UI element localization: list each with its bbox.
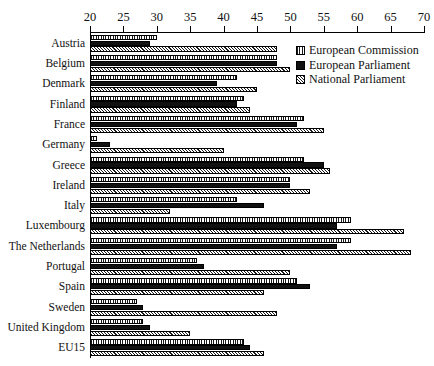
bar-ep	[90, 264, 204, 269]
category-label: The Netherlands	[0, 240, 88, 252]
category-label: Spain	[0, 280, 88, 292]
x-tick-label: 60	[342, 11, 372, 24]
x-tick	[190, 26, 191, 32]
category-label: France	[0, 118, 88, 130]
chart-legend: European CommissionEuropean ParliamentNa…	[296, 44, 419, 88]
bar-ec	[90, 177, 290, 182]
legend-item: National Parliament	[296, 73, 419, 87]
x-tick-label: 30	[142, 11, 172, 24]
legend-label: European Commission	[309, 44, 419, 58]
legend-item: European Parliament	[296, 59, 419, 73]
bar-ec	[90, 258, 197, 263]
bar-np	[90, 67, 290, 72]
x-tick-label: 65	[376, 11, 406, 24]
x-tick	[257, 26, 258, 32]
x-tick	[424, 26, 425, 32]
bar-np	[90, 290, 264, 295]
bar-ec	[90, 55, 277, 60]
legend-label: National Parliament	[309, 73, 405, 87]
bar-np	[90, 168, 330, 173]
category-label: Belgium	[0, 57, 88, 69]
bar-ec	[90, 339, 244, 344]
bar-np	[90, 128, 324, 133]
bar-ep	[90, 61, 277, 66]
category-label: Luxembourg	[0, 219, 88, 231]
legend-item: European Commission	[296, 44, 419, 58]
category-label: Greece	[0, 159, 88, 171]
legend-swatch-icon	[296, 75, 305, 84]
bar-np	[90, 229, 404, 234]
x-tick-label: 45	[242, 11, 272, 24]
bar-ep	[90, 162, 324, 167]
bar-ec	[90, 75, 237, 80]
legend-label: European Parliament	[309, 59, 410, 73]
bar-ec	[90, 299, 137, 304]
bar-ep	[90, 325, 150, 330]
bar-ep	[90, 142, 110, 147]
bar-np	[90, 270, 290, 275]
bar-ec	[90, 136, 97, 141]
bar-ep	[90, 101, 237, 106]
bar-ep	[90, 345, 250, 350]
category-label: United Kingdom	[0, 321, 88, 333]
x-tick-label: 35	[175, 11, 205, 24]
bar-ep	[90, 203, 264, 208]
bar-np	[90, 46, 277, 51]
bar-np	[90, 148, 224, 153]
x-tick-label: 50	[275, 11, 305, 24]
bar-ec	[90, 157, 304, 162]
bar-np	[90, 311, 277, 316]
bar-ec	[90, 278, 297, 283]
bar-np	[90, 209, 170, 214]
category-label: EU15	[0, 341, 88, 353]
bar-ec	[90, 197, 237, 202]
bar-ec	[90, 96, 244, 101]
bar-ec	[90, 35, 157, 40]
legend-swatch-icon	[296, 61, 305, 70]
x-tick-label: 55	[309, 11, 339, 24]
x-tick	[224, 26, 225, 32]
x-tick-label: 25	[108, 11, 138, 24]
x-tick-label: 40	[209, 11, 239, 24]
x-tick	[324, 26, 325, 32]
bar-ep	[90, 41, 150, 46]
bar-ec	[90, 238, 351, 243]
bar-np	[90, 351, 264, 356]
x-tick	[123, 26, 124, 32]
x-tick	[290, 26, 291, 32]
bar-np	[90, 107, 250, 112]
bar-ec	[90, 116, 304, 121]
category-label: Denmark	[0, 77, 88, 89]
category-label: Germany	[0, 138, 88, 150]
x-tick	[157, 26, 158, 32]
bar-np	[90, 331, 190, 336]
chart-container: 2025303540455055606570 AustriaBelgiumDen…	[0, 0, 434, 366]
x-tick	[357, 26, 358, 32]
category-label: Italy	[0, 199, 88, 211]
bar-np	[90, 189, 310, 194]
bar-np	[90, 250, 411, 255]
bar-np	[90, 87, 257, 92]
category-label: Finland	[0, 98, 88, 110]
bar-ec	[90, 217, 351, 222]
bar-ep	[90, 183, 290, 188]
category-label: Portugal	[0, 260, 88, 272]
bar-ep	[90, 305, 143, 310]
x-tick	[90, 26, 91, 32]
bar-ep	[90, 244, 337, 249]
x-tick-label: 20	[75, 11, 105, 24]
category-label: Ireland	[0, 179, 88, 191]
category-label: Austria	[0, 37, 88, 49]
bar-ep	[90, 284, 310, 289]
y-axis-category-labels: AustriaBelgiumDenmarkFinlandFranceGerman…	[0, 33, 88, 358]
x-tick	[391, 26, 392, 32]
legend-swatch-icon	[296, 46, 305, 55]
x-tick-label: 70	[409, 11, 434, 24]
category-label: Sweden	[0, 301, 88, 313]
bar-ep	[90, 81, 217, 86]
bar-ep	[90, 223, 337, 228]
bar-ec	[90, 319, 143, 324]
bar-ep	[90, 122, 297, 127]
